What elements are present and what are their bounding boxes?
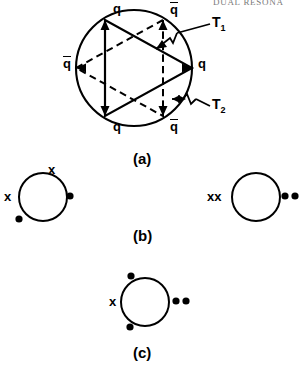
panel-b-graphics	[15, 173, 298, 223]
vertex-label-right-quark: q	[198, 57, 206, 70]
panel-b-left-dot-bottom	[15, 215, 22, 222]
panel-c-cross-left: x	[109, 295, 116, 308]
channel-label-t2: T2	[212, 97, 226, 115]
figure-container: DUAL RESONA	[0, 0, 303, 374]
figure-canvas	[0, 0, 303, 374]
panel-c-dot-top	[127, 272, 134, 279]
panel-b-left-circle	[19, 173, 67, 221]
vertex-label-left-antiquark: q	[63, 56, 71, 70]
vertex-label-bottom-left-quark: q	[113, 120, 121, 133]
panel-c-dot-right-a	[172, 297, 179, 304]
panel-b-left-cross-left: x	[4, 190, 11, 203]
panel-a-circle	[76, 10, 192, 126]
panel-a-arrowheads	[76, 20, 192, 116]
vertex-label-bottom-right-antiquark: q	[170, 119, 178, 133]
panel-b-left-cross-top: x	[48, 163, 55, 176]
panel-c-graphics	[121, 272, 190, 330]
panel-caption-c: (c)	[133, 345, 151, 360]
vertex-label-top-left-quark: q	[113, 2, 121, 15]
channel-label-t1: T1	[212, 15, 226, 33]
panel-c-dot-right-b	[182, 297, 189, 304]
panel-b-right-circle	[232, 173, 280, 221]
panel-b-left-dot-right	[66, 192, 73, 199]
panel-caption-b: (b)	[133, 228, 152, 243]
panel-b-right-dot-b	[291, 192, 298, 199]
panel-b-right-dot-a	[281, 192, 288, 199]
panel-c-circle	[121, 278, 169, 326]
panel-caption-a: (a)	[133, 151, 151, 166]
panel-c-dot-bottom	[126, 323, 133, 330]
panel-a-t2-pointer	[172, 94, 210, 106]
panel-a-graphics	[76, 10, 210, 126]
panel-b-right-cross-pair: xx	[207, 190, 221, 203]
panel-a-dashed-triangle	[76, 20, 163, 116]
vertex-label-top-right-antiquark: q	[170, 2, 178, 16]
